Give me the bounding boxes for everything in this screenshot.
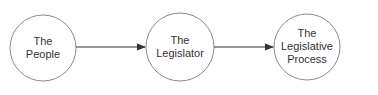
label-line: The (272, 27, 342, 40)
label-line: The (145, 34, 215, 47)
node-process-label: The Legislative Process (272, 27, 342, 66)
label-line: The (8, 35, 78, 48)
node-people-label: The People (8, 35, 78, 61)
label-line: Legislative (272, 40, 342, 53)
label-line: People (8, 48, 78, 61)
node-legislator-label: The Legislator (145, 34, 215, 60)
label-line: Process (272, 53, 342, 66)
label-line: Legislator (145, 47, 215, 60)
